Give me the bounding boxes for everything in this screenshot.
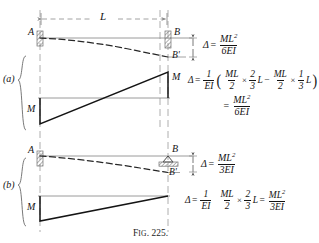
exponent-a-result: 2 bbox=[234, 32, 237, 39]
result-equation-b: Δ = ML2 3EI bbox=[201, 152, 238, 175]
fraction-term1b-b: 2 3 bbox=[244, 190, 251, 211]
term2b-num-a: 1 bbox=[298, 70, 305, 80]
span-label: L bbox=[100, 11, 106, 22]
fraction-coefficient-b: 1 EI bbox=[200, 190, 211, 211]
moment-label-a-left: M bbox=[27, 104, 35, 114]
term1-den-b: 2 bbox=[224, 200, 231, 211]
fraction-a-deriv-result: ML2 6EI bbox=[232, 94, 251, 117]
close-paren-a: ) bbox=[312, 73, 317, 87]
term1-den-a: 2 bbox=[228, 80, 235, 91]
support-fixed-b-left bbox=[37, 151, 43, 166]
elastic-curve-a bbox=[40, 38, 168, 57]
case-a-label: (a) bbox=[3, 74, 15, 84]
figure-caption: FIG. 225. bbox=[133, 228, 168, 238]
term1-num-a: ML bbox=[224, 70, 239, 80]
support-fixed-a-right bbox=[165, 31, 171, 48]
fraction-b-result: ML2 3EI bbox=[217, 152, 236, 175]
numerator-a-deriv-result: ML2 bbox=[232, 94, 251, 106]
point-a-label-b: A bbox=[28, 145, 34, 155]
numerator-b-result: ML2 bbox=[217, 152, 236, 164]
exponent-b-result: 2 bbox=[232, 151, 235, 158]
term2-tail-a: L bbox=[306, 76, 311, 86]
fraction-b-deriv-result: ML2 3EI bbox=[268, 189, 286, 212]
term1b-den-b: 3 bbox=[244, 200, 251, 211]
term1b-num-a: 2 bbox=[249, 70, 256, 80]
derivation-equation-a: Δ = 1 EI ( ML 2 × 2 3 L − ML 2 × 1 3 L ) bbox=[188, 70, 318, 91]
moment-label-a-right: M bbox=[172, 72, 180, 82]
term2-num-a: ML bbox=[273, 70, 288, 80]
fraction-a-result: ML2 6EI bbox=[219, 33, 238, 56]
coef-num-b: 1 bbox=[203, 190, 210, 200]
denominator-a-deriv-result: 6EI bbox=[234, 106, 250, 118]
numerator-b-deriv-result: ML2 bbox=[268, 189, 286, 201]
point-b-deflected-label-a: B' bbox=[172, 51, 180, 61]
case-b-label: (b) bbox=[3, 180, 15, 190]
caption-small: IG bbox=[138, 229, 146, 238]
times-term1-b: × bbox=[236, 196, 243, 205]
open-paren-a: ( bbox=[217, 73, 222, 87]
denominator-a-result: 6EI bbox=[220, 45, 236, 57]
fraction-coefficient-a: 1 EI bbox=[203, 70, 214, 91]
fraction-term2-a: ML 2 bbox=[273, 70, 288, 91]
fraction-term1-a: ML 2 bbox=[224, 70, 239, 91]
derivation-equation-b: Δ = 1 EI ML 2 × 2 3 L = ML2 3EI bbox=[185, 189, 288, 212]
coef-num-a: 1 bbox=[206, 70, 213, 80]
numerator-a-result: ML2 bbox=[219, 33, 238, 45]
equals-a-deriv-result: = bbox=[222, 101, 231, 111]
term1b-den-a: 3 bbox=[249, 80, 256, 91]
term2-den-a: 2 bbox=[277, 80, 284, 91]
derivation-result-a: = ML2 6EI bbox=[222, 94, 253, 117]
equals-b-deriv: = bbox=[191, 196, 199, 206]
fraction-term1-b: ML 2 bbox=[219, 190, 234, 211]
equals-a-deriv: = bbox=[194, 76, 202, 86]
delta-measure-a bbox=[189, 38, 197, 57]
denominator-b-deriv-result: 3EI bbox=[269, 201, 285, 212]
times-term1-a: × bbox=[241, 76, 248, 85]
brace-case-b bbox=[18, 158, 26, 226]
fraction-term2b-a: 1 3 bbox=[298, 70, 305, 91]
minus-a: − bbox=[263, 76, 271, 86]
equals-a: = bbox=[209, 40, 218, 50]
brace-case-a bbox=[18, 56, 26, 130]
moment-label-b-left: M bbox=[27, 202, 35, 212]
elastic-curve-b bbox=[40, 156, 168, 173]
point-b-label-a: B bbox=[174, 27, 180, 37]
equals-b: = bbox=[207, 159, 216, 169]
exponent-a-deriv-result: 2 bbox=[247, 93, 250, 100]
fraction-term1b-a: 2 3 bbox=[249, 70, 256, 91]
point-b-deflected-label-b: B' bbox=[169, 168, 177, 178]
result-equation-a: Δ = ML2 6EI bbox=[203, 33, 240, 56]
coef-den-a: EI bbox=[203, 80, 214, 91]
equals2-b: = bbox=[258, 196, 266, 206]
times-term2-a: × bbox=[289, 76, 296, 85]
delta-measure-b bbox=[189, 156, 197, 172]
point-b-label-b: B bbox=[172, 144, 178, 154]
construction-lines bbox=[40, 10, 168, 232]
point-a-label-a: A bbox=[28, 27, 34, 37]
denominator-b-result: 3EI bbox=[218, 164, 234, 176]
moment-diagram-b bbox=[40, 196, 168, 221]
support-pin-b-right bbox=[159, 156, 178, 166]
term1b-num-b: 2 bbox=[244, 190, 251, 200]
term1-num-b: ML bbox=[219, 190, 234, 200]
caption-number: . 225. bbox=[147, 228, 168, 238]
term2b-den-a: 3 bbox=[298, 80, 305, 91]
exponent-b-deriv-result: 2 bbox=[282, 188, 285, 195]
coef-den-b: EI bbox=[200, 200, 211, 211]
